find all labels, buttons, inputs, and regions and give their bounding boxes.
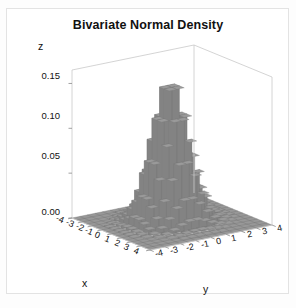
chart-figure: Bivariate Normal Density z 0.15 0.10 0.0… xyxy=(0,0,296,308)
y-tick-label--2: -2 xyxy=(185,241,195,252)
chart-canvas xyxy=(0,0,296,308)
y-tick-label--1: -1 xyxy=(200,238,210,249)
bar-blocks xyxy=(104,84,240,240)
